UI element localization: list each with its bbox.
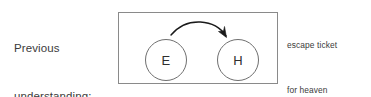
arrowhead-icon <box>219 27 227 38</box>
node-earth: E <box>145 39 187 81</box>
legend-block: escape ticket for heaven E = Earth H = H… <box>287 8 371 97</box>
arrow-curve-path <box>171 22 226 36</box>
node-heaven: H <box>217 39 259 81</box>
diagram-frame: E H <box>118 12 278 84</box>
caption-previous-understanding: Previous understanding: <box>14 8 114 97</box>
legend-line-2: for heaven <box>287 83 371 97</box>
node-heaven-label: H <box>233 54 243 67</box>
diagram-canvas: Previous understanding: E H escape ticke… <box>0 0 371 97</box>
node-earth-label: E <box>162 54 171 67</box>
caption-line-2: understanding: <box>14 88 114 97</box>
caption-line-1: Previous <box>14 40 114 56</box>
legend-line-1: escape ticket <box>287 38 371 53</box>
